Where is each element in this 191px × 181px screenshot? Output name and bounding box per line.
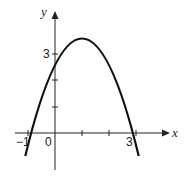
parabola-chart: x y −1 0 3 3: [0, 0, 191, 181]
tick-label-neg1: −1: [16, 135, 30, 149]
tick-label-3-x: 3: [126, 135, 133, 149]
x-axis-arrow-icon: [162, 130, 170, 137]
tick-label-3-y: 3: [43, 47, 50, 61]
x-axis-label: x: [171, 125, 178, 140]
y-axis-arrow-icon: [52, 11, 59, 19]
y-axis-label: y: [39, 4, 47, 19]
tick-label-0: 0: [45, 135, 52, 149]
